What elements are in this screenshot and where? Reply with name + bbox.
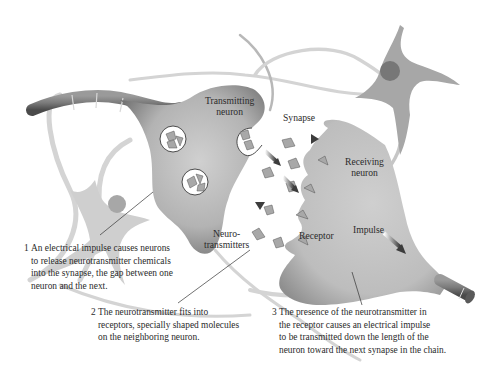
synapse-label: Synapse	[283, 112, 315, 123]
caption-3: 3 The presence of the neurotransmitter i…	[272, 306, 446, 356]
caption-number: 2	[91, 306, 96, 319]
caption-line: into the synapse, the gap between one	[24, 267, 173, 280]
vesicle-releasing	[237, 128, 262, 156]
caption-line: neuron and the next.	[24, 280, 173, 293]
caption-line: The neurotransmitter fits into	[91, 306, 239, 319]
caption-line: to be transmitted down the length of the	[272, 331, 446, 344]
caption-line: receptors, specially shaped molecules	[91, 319, 239, 332]
caption-line: An electrical impulse causes neurons	[24, 242, 173, 255]
caption-line: on the neighboring neuron.	[91, 331, 239, 344]
caption-number: 1	[24, 242, 29, 255]
caption-2: 2 The neurotransmitter fits into recepto…	[91, 306, 239, 344]
receiving-neuron-label: Receiving neuron	[345, 156, 384, 178]
receiving-axon	[440, 280, 477, 305]
label-line: Transmitting	[205, 95, 254, 106]
label-line: transmitters	[204, 239, 249, 250]
impulse-label: Impulse	[353, 224, 384, 235]
caption-line: neuron toward the next synapse in the ch…	[272, 344, 446, 357]
synapse-diagram: Transmitting neuron Synapse Receiving ne…	[0, 0, 493, 379]
label-line: neuron	[351, 167, 378, 178]
caption-number: 3	[272, 306, 277, 319]
neurotransmitters-label: Neuro- transmitters	[204, 228, 249, 250]
receptor-label: Receptor	[299, 230, 334, 241]
vesicle-1	[160, 126, 186, 152]
caption-1: 1 An electrical impulse causes neurons t…	[24, 242, 173, 292]
label-line: neuron	[216, 106, 243, 117]
caption-line: to release neurotransmitter chemicals	[24, 255, 173, 268]
vesicle-2	[182, 169, 208, 195]
caption-line: The presence of the neurotransmitter in	[272, 306, 446, 319]
transmitting-neuron-label: Transmitting neuron	[205, 95, 254, 117]
caption-line: the receptor causes an electrical impuls…	[272, 319, 446, 332]
label-line: Neuro-	[213, 228, 240, 239]
label-line: Receiving	[345, 156, 384, 167]
